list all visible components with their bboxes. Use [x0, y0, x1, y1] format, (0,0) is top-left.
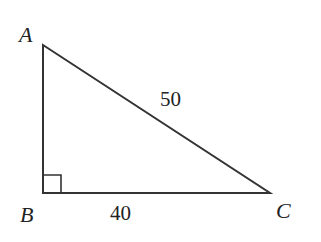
vertex-label-c: C	[276, 198, 291, 223]
triangle-diagram: A B C 50 40	[0, 0, 321, 242]
side-label-ac: 50	[160, 87, 181, 111]
side-label-bc: 40	[110, 201, 131, 225]
vertex-label-b: B	[20, 202, 33, 227]
triangle-abc	[43, 45, 270, 193]
vertex-label-a: A	[17, 22, 33, 47]
right-angle-marker	[43, 175, 61, 193]
